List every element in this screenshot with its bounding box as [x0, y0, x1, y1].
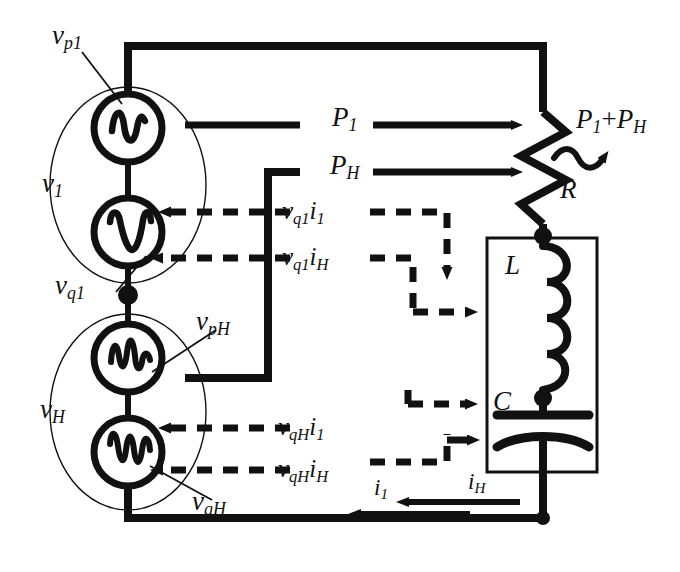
- zigzag-resistor-icon: [521, 112, 566, 224]
- cross-term-path-vqH-iH-right[interactable]: [370, 434, 447, 462]
- circuit-schematic-canvas: [0, 0, 680, 572]
- label-dissipated-power: P1+PH: [576, 106, 646, 137]
- label-cross-term-vq1-iH: vq1iH: [282, 244, 328, 273]
- cross-term-path-vq1-iH-right[interactable]: [370, 258, 413, 312]
- label-inductor: L: [505, 252, 520, 279]
- label-cross-term-vq1-i1: vq1i1: [282, 198, 325, 227]
- leader-line-vp1: [82, 52, 122, 104]
- label-pH: PH: [330, 152, 359, 183]
- label-cross-term-vqH-iH: vqHiH: [278, 456, 328, 485]
- junction-dot-mid: [118, 285, 138, 305]
- label-resistor: R: [560, 176, 577, 203]
- label-vp1: vp1: [52, 22, 82, 53]
- label-capacitor: C: [493, 388, 511, 415]
- label-vq1: vq1: [55, 272, 85, 303]
- label-current-i1: i1: [374, 476, 388, 501]
- label-v1-group: v1: [42, 170, 63, 201]
- source-vq1-circle: [94, 198, 162, 266]
- coil-inductor-icon: [543, 246, 567, 390]
- label-vH-group: vH: [40, 396, 65, 427]
- label-vpH: vpH: [196, 308, 230, 339]
- label-cross-term-vqH-i1: vqHi1: [278, 414, 324, 443]
- label-vqH: vqH: [192, 488, 226, 519]
- dissipation-wavy-arrow: [554, 149, 602, 168]
- label-p1: P1: [332, 104, 357, 135]
- source-vp1-circle: [94, 94, 162, 162]
- circuit-diagram: vp1 v1 vq1 vpH vH vqH P1 PH P1+PH R L C …: [0, 0, 680, 572]
- label-current-iH: iH: [468, 470, 485, 495]
